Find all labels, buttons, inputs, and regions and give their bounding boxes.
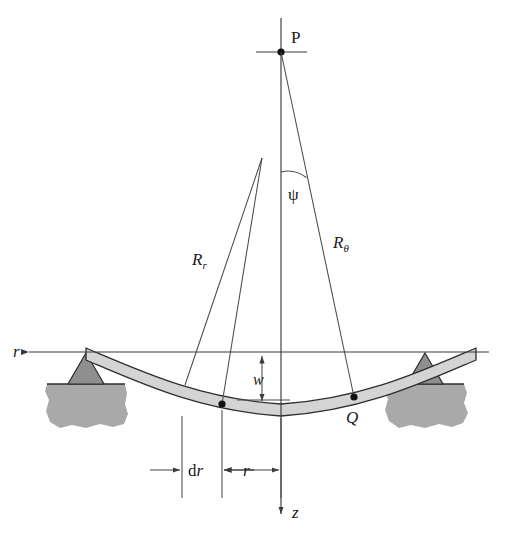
- figure-container: r z P Rθ Q ψ: [0, 0, 511, 544]
- dr-label-r: r: [197, 461, 204, 480]
- r-axis-label: r: [13, 342, 20, 361]
- point-q-dot: [350, 393, 357, 400]
- plate-deflection-diagram: r z P Rθ Q ψ: [0, 0, 511, 544]
- radius-rtheta-base: R: [332, 233, 344, 252]
- canvas-background: [0, 0, 511, 544]
- radius-rtheta-subscript: θ: [343, 242, 349, 254]
- angle-psi-label: ψ: [288, 185, 299, 204]
- radius-rr-base: R: [191, 250, 203, 269]
- z-axis-label: z: [291, 503, 299, 522]
- r-dimension-label: r: [243, 461, 250, 480]
- dr-dimension-label: dr: [188, 461, 204, 480]
- left-ground-block: [45, 384, 128, 428]
- point-p-label: P: [291, 28, 300, 47]
- radius-rr-plate-dot: [218, 400, 225, 407]
- radius-rr-subscript: r: [202, 259, 207, 271]
- deflection-w-label: w: [253, 371, 264, 388]
- point-q-label: Q: [346, 408, 358, 427]
